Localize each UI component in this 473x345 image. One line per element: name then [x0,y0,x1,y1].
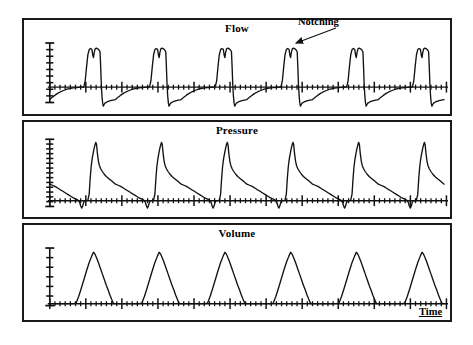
pressure-waveform-plot [24,122,450,217]
time-axis-label: Time [419,306,442,317]
panel-pressure: Pressure [22,120,452,219]
panel-flow: Flow [22,18,452,116]
volume-waveform-plot [24,225,450,320]
waveform-figure: Flow Pressure Volume Notching Time [0,0,473,345]
notching-annotation-label: Notching [298,16,339,27]
flow-waveform-plot [24,20,450,114]
panel-volume: Volume [22,223,452,322]
